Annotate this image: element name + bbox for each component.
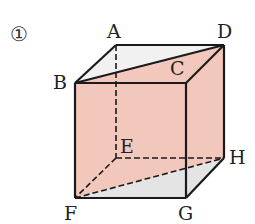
vertex-label-d: D (217, 22, 232, 41)
vertex-label-h: H (229, 148, 246, 167)
vertex-label-f: F (64, 204, 77, 223)
vertex-label-a: A (107, 22, 121, 41)
vertex-label-c: C (170, 59, 185, 78)
vertex-label-b: B (53, 73, 67, 92)
vertex-label-g: G (178, 204, 193, 223)
vertex-label-e: E (120, 137, 134, 156)
